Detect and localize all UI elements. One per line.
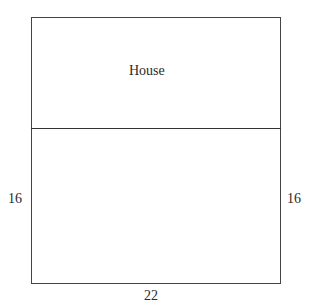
plot-outline [31, 17, 281, 284]
right-side-dimension: 16 [287, 191, 301, 207]
left-side-dimension: 16 [8, 191, 22, 207]
house-label: House [129, 63, 165, 79]
bottom-dimension: 22 [144, 288, 158, 304]
house-divider-line [31, 128, 281, 129]
